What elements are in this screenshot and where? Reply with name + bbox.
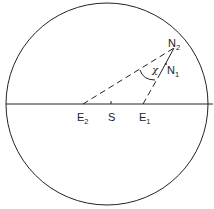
label-e2: E2 (77, 111, 89, 126)
dashed-line-e1-n1 (143, 74, 160, 104)
label-n1: N1 (167, 64, 179, 79)
diagram-canvas: χ N2 N1 E2 S E1 (0, 0, 214, 209)
label-e1: E1 (139, 111, 151, 126)
dashed-line-e2-n2 (83, 48, 174, 104)
label-chi: χ (151, 64, 159, 75)
label-s: S (108, 111, 115, 123)
label-n2: N2 (168, 37, 180, 52)
